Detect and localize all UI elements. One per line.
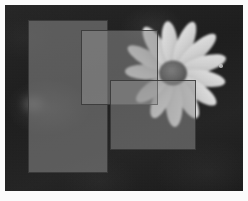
photo-frame (0, 0, 248, 201)
bokeh-speck-right (219, 64, 223, 68)
photo-image (5, 5, 243, 191)
overlay-rect-wide-lower-right[interactable] (110, 80, 196, 150)
screenshot-canvas (0, 0, 248, 201)
